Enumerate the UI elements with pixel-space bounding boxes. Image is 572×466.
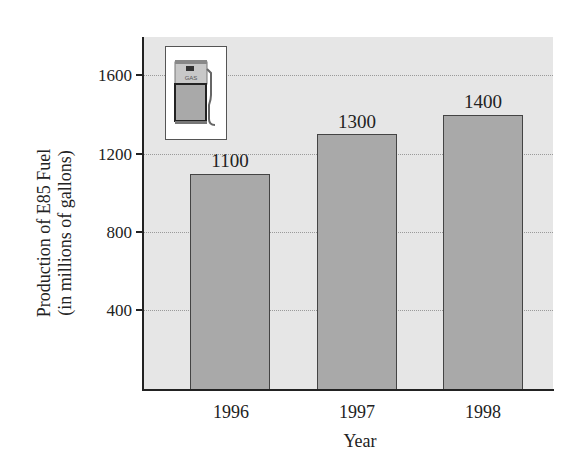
y-tick-label-800: 800 bbox=[72, 224, 132, 241]
y-tick-800 bbox=[136, 231, 144, 233]
x-tick-label-1997: 1997 bbox=[307, 403, 407, 421]
gas-pump-icon-frame: GAS bbox=[165, 46, 227, 140]
bar-1996 bbox=[190, 174, 270, 390]
y-tick-label-1200: 1200 bbox=[72, 146, 132, 163]
y-tick-1200 bbox=[136, 153, 144, 155]
gas-pump-icon: GAS bbox=[166, 47, 226, 139]
bar-label-1998: 1400 bbox=[433, 92, 533, 111]
y-axis-title-line2: (in millions of gallons) bbox=[55, 108, 76, 358]
x-tick-label-1998: 1998 bbox=[433, 403, 533, 421]
x-tick-label-1996: 1996 bbox=[181, 403, 281, 421]
y-tick-label-400: 400 bbox=[72, 302, 132, 319]
bar-label-1996: 1100 bbox=[180, 151, 280, 170]
x-axis bbox=[142, 389, 554, 391]
bar-label-1997: 1300 bbox=[307, 112, 407, 131]
svg-text:GAS: GAS bbox=[185, 75, 198, 81]
y-axis-title-line1: Production of E85 Fuel bbox=[34, 108, 55, 358]
y-axis-title: Production of E85 Fuel (in millions of g… bbox=[34, 108, 76, 358]
y-tick-label-1600: 1600 bbox=[72, 67, 132, 84]
bar-1997 bbox=[317, 134, 397, 390]
y-tick-400 bbox=[136, 309, 144, 311]
y-axis bbox=[142, 37, 144, 391]
x-axis-title: Year bbox=[310, 431, 410, 452]
bar-1998 bbox=[443, 115, 523, 390]
y-tick-1600 bbox=[136, 74, 144, 76]
